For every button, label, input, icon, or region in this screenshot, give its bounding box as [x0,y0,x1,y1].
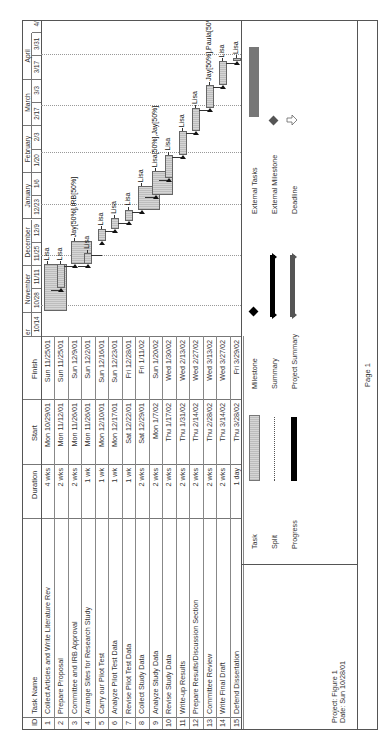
task-bar[interactable] [219,61,227,84]
resource-label: Lisa [124,193,132,206]
legend-summary-label: Summary [270,358,279,389]
week-tick-label: 11/11 [32,265,41,289]
cell-finish: Wed 2/13/02 [176,340,189,395]
legend-task-swatch [249,415,260,481]
cell-id: 8 [135,717,148,729]
cell-finish: Fri 3/29/02 [230,340,243,395]
task-bar[interactable] [179,131,187,154]
cell-duration: 2 wks [216,468,229,514]
resource-leader-line [114,215,115,218]
legend-split-label: Split [270,535,279,549]
cell-duration: 1 wk [122,468,135,514]
dependency-arrow-icon [220,85,226,89]
resource-leader-line [87,250,88,253]
cell-start: Mon 11/12/01 [54,403,67,460]
resource-leader-line [60,261,61,264]
cell-start: Thu 2/28/02 [203,403,216,460]
project-date: Date: Sun 10/28/01 [338,661,347,723]
cell-finish: Sun 12/2/01 [81,340,94,395]
week-tick-label: 10/28 [32,288,41,312]
summary-left-cap-icon [272,311,277,319]
header-duration: Duration [30,471,39,499]
cell-finish: Wed 3/27/02 [216,340,229,395]
week-tick-label: 4/14 [32,21,41,33]
cell-id: 4 [81,717,94,729]
cell-duration: 2 wks [162,468,175,514]
week-tick-label: 2/17 [32,102,41,126]
cell-duration: 2 wks [135,468,148,514]
task-bar[interactable] [57,264,65,287]
cell-task-name: Write-up Results [176,521,189,714]
cell-id: 1 [41,717,54,729]
cell-id: 14 [216,717,229,729]
month-label: March [23,80,32,127]
cell-start: Mon 11/26/01 [68,403,81,460]
month-label: February [23,126,32,173]
deadline-arrow-icon [286,114,298,126]
month-label: April [23,33,32,80]
task-bar[interactable] [206,85,214,108]
resource-leader-line [182,128,183,131]
resource-leader-line [236,55,237,58]
resource-label: Lisa [83,236,91,249]
legend-project-summary-swatch [290,255,295,317]
cell-finish: Wed 3/13/02 [203,340,216,395]
page-footer: Page 1 [357,20,378,730]
cell-task-name: Defend Dissertation [230,521,243,714]
week-tick-label: 11/25 [32,242,41,266]
cell-duration: 1 day [230,468,243,514]
resource-leader-line [74,238,75,241]
cell-duration: 4 wks [41,468,54,514]
resource-leader-line [168,152,169,155]
cell-finish: Sun 12/16/01 [95,340,108,395]
legend-summary-swatch [270,255,275,317]
cell-finish: Fri 12/28/01 [122,340,135,395]
task-bar[interactable] [165,155,173,178]
legend-progress-swatch [291,417,297,481]
week-tick-label: 2/3 [32,125,41,149]
cell-start: Thu 3/28/02 [230,403,243,460]
gantt-print-page: ID Task Name Duration Start Finish 1Coll… [0,0,390,749]
external-milestone-diamond-icon [269,116,279,126]
task-bar[interactable] [233,58,241,61]
cell-duration: 2 wks [149,468,162,514]
cell-duration: 2 wks [54,468,67,514]
resource-label: Lisa [178,114,186,127]
week-tick-label: 3/3 [32,79,41,103]
header-id: ID [30,719,39,727]
cell-task-name: Analyze Pilot Test Data [108,521,121,714]
gantt-chart-area: erNovemberDecemberJanuaryFebruaryMarchAp… [23,21,241,336]
month-label: December [23,220,32,267]
header-start: Start [30,425,39,441]
legend-task-label: Task [250,534,259,549]
resource-leader-line [101,227,102,230]
legend-external-tasks-swatch [249,47,259,117]
resource-leader-line [222,58,223,61]
week-tick-label: 3/17 [32,55,41,79]
cell-duration: 2 wks [189,468,202,514]
cell-start: Mon 12/10/01 [95,403,108,460]
cell-start: Mon 10/29/01 [41,403,54,460]
task-bar[interactable] [192,108,200,131]
legend-external-milestone-label: External Milestone [270,155,279,214]
cell-duration: 1 wk [95,468,108,514]
page-number: Page 1 [363,21,372,729]
week-tick-label: 1/6 [32,172,41,196]
cell-start: Thu 3/14/02 [216,403,229,460]
dependency-arrow-icon [166,178,172,182]
resource-leader-line [195,105,196,108]
cell-start: Sat 12/22/01 [122,403,135,460]
cell-finish: Wed 1/30/02 [162,340,175,395]
dependency-arrow-icon [193,131,199,135]
month-gridline [41,152,241,153]
week-tick-label: 12/23 [32,195,41,219]
week-tick-label: 10/14 [32,313,41,336]
cell-finish: Sun 1/20/02 [149,340,162,395]
week-tick-label: 12/9 [32,219,41,243]
project-summary-right-cap-icon [292,253,297,261]
legend-progress-label: Progress [290,520,299,549]
cell-task-name: Carry our Pilot Test [95,521,108,714]
resource-label: Lisa[50%],Jay[50%] [151,106,159,167]
cell-finish: Sun 11/25/01 [54,340,67,395]
legend-milestone-label: Milestone [250,358,259,389]
